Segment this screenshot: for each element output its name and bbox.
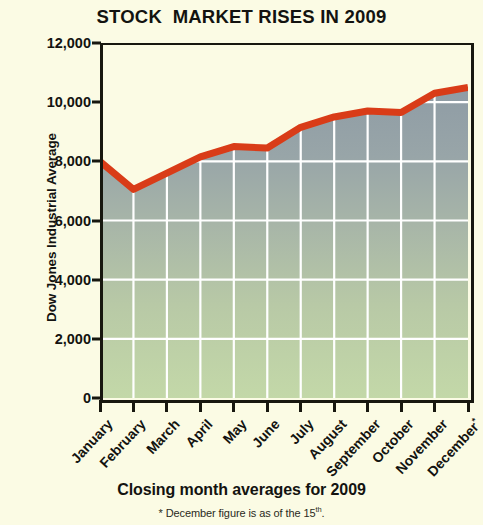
x-tick-mark: [199, 400, 202, 412]
x-tick-mark: [232, 400, 235, 412]
footer-note: * December figure is as of the 15th.: [0, 505, 483, 519]
y-tick-label: 8,000: [55, 153, 91, 169]
x-tick-mark: [366, 400, 369, 412]
plot-frame: [100, 43, 474, 403]
page-title: STOCK MARKET RISES IN 2009: [0, 6, 483, 28]
y-tick-label: 10,000: [47, 94, 91, 110]
stock-market-chart-figure: STOCK MARKET RISES IN 2009 Dow Jones Ind…: [0, 0, 483, 525]
x-tick-mark: [99, 400, 102, 412]
x-tick-mark: [400, 400, 403, 412]
footer-note-text: * December figure is as of the 15: [159, 507, 316, 519]
y-tick-label: 0: [83, 390, 91, 406]
x-tick-mark: [333, 400, 336, 412]
footer-caption: Closing month averages for 2009: [0, 481, 483, 499]
x-tick-mark: [132, 400, 135, 412]
y-tick-label: 6,000: [55, 213, 91, 229]
footer-note-period: .: [322, 507, 325, 519]
x-tick-mark: [266, 400, 269, 412]
x-tick-mark: [433, 400, 436, 412]
y-tick-label: 4,000: [55, 272, 91, 288]
x-tick-mark: [299, 400, 302, 412]
y-tick-label: 2,000: [55, 331, 91, 347]
x-tick-mark: [165, 400, 168, 412]
x-tick-mark: [467, 400, 470, 412]
y-tick-label: 12,000: [47, 35, 91, 51]
